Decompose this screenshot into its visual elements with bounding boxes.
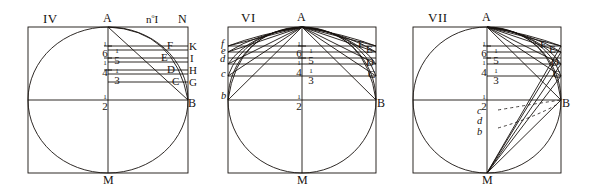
figure-VI-roman: VI	[241, 11, 256, 24]
engraving-plate: IV noI N A M B F E D C K I H G 16 15 14 …	[0, 0, 593, 192]
figure-IV-point-C: C	[172, 76, 179, 87]
figure-VII-point-D: D	[551, 57, 559, 68]
figure-VII-point-F: F	[540, 39, 546, 50]
chord-M-B	[487, 100, 561, 173]
figure-VII-lower-label-b: b	[477, 127, 482, 138]
figure-IV-fraction-one-half: 12	[98, 94, 112, 111]
figure-VI-fraction-one-fifth: 15	[304, 48, 318, 65]
figure-IV-point-E: E	[161, 52, 168, 63]
figure-VII: VII A M B F E D C c d b 16 15 14 13 12	[398, 0, 593, 192]
figure-VI-point-D: D	[366, 57, 374, 68]
figure-IV-roman: IV	[43, 12, 58, 25]
dotted-construction-1	[498, 100, 561, 110]
figure-VI-point-M: M	[297, 174, 308, 186]
figure-VII-point-M: M	[482, 174, 493, 186]
figure-IV-edge-label-K: K	[189, 41, 197, 52]
figure-IV-point-M: M	[103, 174, 114, 186]
figure-IV-edge-label-G: G	[189, 77, 197, 88]
figure-VI-point-C: C	[368, 69, 375, 80]
figure-VII-roman: VII	[428, 11, 448, 24]
figure-IV-edge-label-H: H	[189, 65, 197, 76]
figure-VII-fraction-one-half: 12	[477, 94, 491, 111]
chord-A-e	[228, 27, 302, 52]
figure-VII-point-E: E	[549, 44, 556, 55]
figure-VI-fraction-one-third: 13	[304, 68, 318, 85]
figure-IV-number-note: noI	[146, 13, 158, 25]
figure-VI-fraction-one-half: 12	[292, 94, 306, 111]
figure-VI-left-label-d: d	[220, 54, 225, 65]
figure-IV-fraction-one-fifth: 15	[110, 48, 124, 65]
figure-VI-point-E: E	[366, 44, 373, 55]
figure-IV-point-A: A	[103, 12, 112, 24]
figure-VII-point-A: A	[482, 11, 491, 23]
figure-VI-point-B: B	[377, 97, 385, 109]
figure-VI-left-label-c: c	[221, 69, 226, 80]
figure-VI: VI A M B F E D C f e d c b 16 15 14 13 1…	[200, 0, 398, 192]
figure-IV-edge-label-I: I	[190, 53, 194, 64]
figure-VII-lower-label-d: d	[477, 116, 482, 127]
figure-VII-fraction-one-fifth: 15	[489, 48, 503, 65]
dotted-construction-2	[498, 104, 558, 128]
figure-VII-point-C: C	[553, 69, 560, 80]
figure-IV-corner-label-N: N	[178, 13, 187, 25]
figure-IV-fraction-one-third: 13	[110, 68, 124, 85]
figure-IV-point-B: B	[188, 97, 196, 109]
figure-IV-point-F: F	[167, 40, 173, 51]
figure-VI-point-A: A	[297, 11, 306, 23]
chord-M-C	[487, 76, 561, 173]
figure-VII-fraction-one-third: 13	[489, 68, 503, 85]
figure-IV: IV noI N A M B F E D C K I H G 16 15 14 …	[0, 0, 200, 192]
figure-VI-point-F: F	[358, 39, 364, 50]
figure-VII-point-B: B	[562, 97, 570, 109]
figure-IV-point-D: D	[167, 64, 175, 75]
figure-VI-left-label-b: b	[221, 91, 226, 102]
